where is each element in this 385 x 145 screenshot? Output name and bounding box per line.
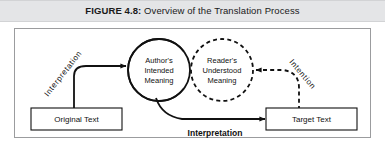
diagram-frame <box>14 28 371 138</box>
figure-caption: FIGURE 4.8: Overview of the Translation … <box>85 6 299 16</box>
figure-title: Overview of the Translation Process <box>144 5 300 16</box>
figure-caption-band: FIGURE 4.8: Overview of the Translation … <box>0 0 385 22</box>
figure-container: FIGURE 4.8: Overview of the Translation … <box>0 0 385 145</box>
figure-number: FIGURE 4.8: <box>85 5 141 16</box>
